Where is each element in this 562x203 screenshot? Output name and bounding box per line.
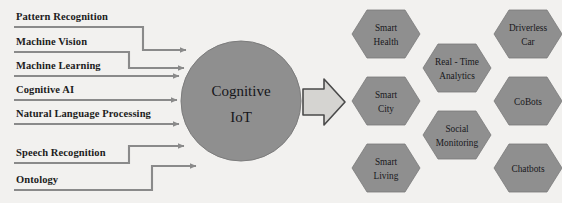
hex-smart-city-line2: City [378,104,394,114]
hex-smart-city: Smart City [352,77,420,125]
hex-smart-health-line1: Smart [375,23,398,33]
input-label-pattern-recognition: Pattern Recognition [16,11,108,22]
cognitive-iot-circle: Cognitive IoT [181,41,301,161]
hex-smart-living-line2: Living [374,171,399,181]
hex-smart-living-line1: Smart [375,157,398,167]
hex-real-time-analytics: Real - Time Analytics [423,44,491,92]
input-label-speech-recognition: Speech Recognition [16,147,106,158]
hex-social-monitoring-line2: Monitoring [436,138,479,148]
input-label-cognitive-ai: Cognitive AI [16,84,74,95]
input-label-ontology: Ontology [16,174,59,185]
hex-social-monitoring: Social Monitoring [423,111,491,159]
hex-real-time-analytics-line1: Real - Time [435,57,479,67]
hex-driverless-car-line1: Driverless [509,23,548,33]
input-label-machine-vision: Machine Vision [16,36,87,47]
hex-chatbots-line1: Chatbots [511,164,544,174]
diagram-canvas: Pattern Recognition Machine Vision Machi… [0,0,562,203]
input-labels: Pattern Recognition Machine Vision Machi… [16,11,152,185]
output-honeycomb: Smart Health Smart City Smart Living Rea… [352,10,562,192]
input-label-natural-language-processing: Natural Language Processing [16,108,152,119]
hex-driverless-car: Driverless Car [494,10,562,58]
hex-smart-living: Smart Living [352,144,420,192]
input-label-machine-learning: Machine Learning [16,60,101,71]
hex-chatbots: Chatbots [494,144,562,192]
hex-driverless-car-line2: Car [521,37,535,47]
circle-label-line1: Cognitive [211,83,271,99]
hex-cobots: CoBots [494,77,562,125]
hex-smart-city-line1: Smart [375,90,398,100]
hex-real-time-analytics-line2: Analytics [439,71,475,81]
hex-social-monitoring-line1: Social [445,124,469,134]
hex-cobots-line1: CoBots [514,97,542,107]
flow-block-arrow [303,79,345,125]
hex-smart-health: Smart Health [352,10,420,58]
hex-smart-health-line2: Health [374,37,399,47]
circle-label-line2: IoT [230,109,252,125]
